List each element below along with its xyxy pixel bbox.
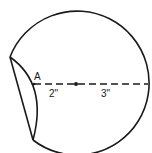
point-a-label: A xyxy=(34,71,41,82)
segment-2in-label: 2" xyxy=(49,88,59,99)
point-a-marker xyxy=(33,83,36,86)
folded-circle-diagram: A 2" 3" xyxy=(0,0,152,153)
center-dot xyxy=(74,82,78,86)
fold-chord xyxy=(10,57,33,140)
segment-3in-label: 3" xyxy=(101,88,111,99)
